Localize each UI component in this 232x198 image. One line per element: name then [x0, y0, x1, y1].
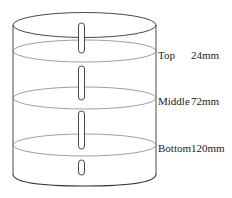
center-rod: [79, 23, 85, 175]
cylinder-bottom-curve: [13, 174, 156, 186]
label-middle: Middle: [158, 95, 190, 107]
label-bottom: Bottom: [158, 142, 191, 154]
label-top: Top: [158, 49, 175, 61]
depth-top: 24mm: [191, 49, 220, 61]
depth-bottom: 120mm: [191, 142, 225, 154]
depth-middle: 72mm: [191, 95, 220, 107]
cylinder-diagram: Top 24mm Middle 72mm Bottom 120mm: [0, 0, 232, 198]
